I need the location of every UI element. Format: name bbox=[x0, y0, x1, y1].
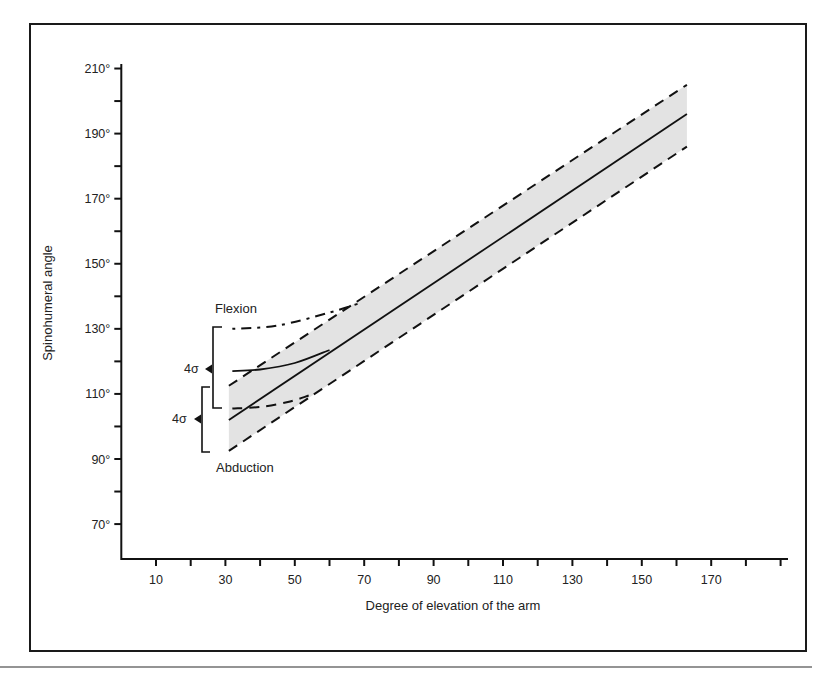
x-tick-label: 90 bbox=[427, 573, 441, 587]
x-tick-label: 150 bbox=[631, 573, 652, 587]
x-tick-label: 70 bbox=[357, 573, 371, 587]
flexion-label: Flexion bbox=[215, 301, 257, 316]
y-tick-label: 70° bbox=[91, 518, 110, 532]
arrow-left-icon bbox=[194, 415, 201, 424]
x-tick-label: 110 bbox=[493, 573, 513, 587]
y-axis-label: Spinohumeral angle bbox=[40, 245, 55, 361]
bracket-abduction bbox=[202, 387, 210, 452]
y-tick-label: 210° bbox=[84, 62, 110, 76]
y-tick-label: 90° bbox=[91, 453, 110, 467]
figure: 70°90°110°130°150°170°190°210° 103050709… bbox=[0, 0, 826, 676]
x-tick-label: 50 bbox=[288, 573, 302, 587]
plot-area: 70°90°110°130°150°170°190°210° 103050709… bbox=[40, 62, 788, 613]
y-ticks: 70°90°110°130°150°170°190°210° bbox=[84, 62, 121, 532]
sigma-label-flexion: 4σ bbox=[184, 362, 199, 376]
series-abduction-mean bbox=[229, 114, 687, 420]
x-tick-label: 130 bbox=[562, 573, 583, 587]
x-tick-label: 10 bbox=[149, 573, 163, 587]
y-tick-label: 190° bbox=[84, 127, 110, 141]
y-tick-label: 130° bbox=[84, 322, 110, 336]
y-tick-label: 170° bbox=[84, 192, 110, 206]
abduction-label: Abduction bbox=[216, 460, 274, 475]
arrow-left-icon bbox=[205, 365, 212, 374]
sigma-label-abduction: 4σ bbox=[172, 412, 187, 426]
x-ticks: 1030507090110130150170 bbox=[149, 559, 781, 587]
y-tick-label: 110° bbox=[85, 387, 110, 401]
series-abduction-2 bbox=[229, 85, 687, 386]
x-axis-label: Degree of elevation of the arm bbox=[366, 598, 541, 613]
x-tick-label: 170 bbox=[701, 573, 722, 587]
figure-frame bbox=[30, 24, 806, 651]
bracket-flexion bbox=[213, 327, 222, 408]
y-tick-label: 150° bbox=[84, 257, 110, 271]
abduction-4sigma-bracket: 4σ bbox=[172, 387, 210, 452]
x-tick-label: 30 bbox=[218, 573, 232, 587]
flexion-4sigma-bracket: 4σ bbox=[184, 327, 222, 408]
